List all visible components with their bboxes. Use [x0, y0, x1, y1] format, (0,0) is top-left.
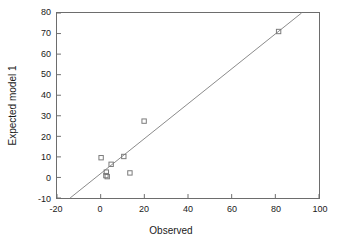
scatter-chart: -1001020304050607080 -20020406080100 Exp… — [0, 0, 342, 241]
data-point-marker — [128, 171, 132, 175]
x-tick-label: 40 — [183, 205, 193, 214]
plot-canvas — [57, 13, 319, 198]
x-tick-label: 0 — [97, 205, 102, 214]
x-tick-label: 80 — [271, 205, 281, 214]
x-tick-label: 60 — [227, 205, 237, 214]
plot-area — [56, 12, 320, 199]
x-tick-label: -20 — [49, 205, 62, 214]
x-tick-label: 100 — [312, 205, 327, 214]
data-point-marker — [99, 156, 103, 160]
data-point-marker — [142, 119, 146, 123]
tick-marks — [57, 13, 319, 198]
x-axis-title: Observed — [0, 226, 342, 236]
x-tick-label: 20 — [139, 205, 149, 214]
y-axis-title: Expected model 1 — [8, 12, 22, 199]
